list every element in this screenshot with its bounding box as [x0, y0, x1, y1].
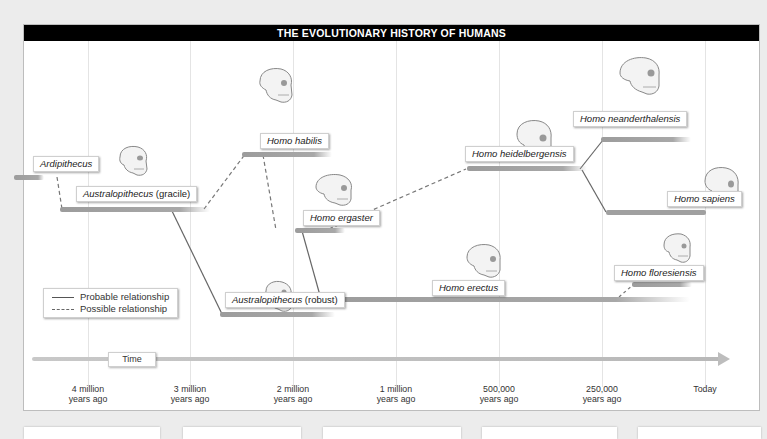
- bottom-card: [24, 427, 160, 439]
- species-name: Homo sapiens: [674, 193, 735, 204]
- tick-line2: years ago: [567, 394, 637, 404]
- homo-sapiens-range-bar: [606, 210, 706, 215]
- tick-line1: 2 million: [258, 384, 328, 394]
- homo-habilis-skull-icon: [256, 65, 296, 107]
- species-qualifier: (gracile): [153, 188, 190, 199]
- homo-heidelbergensis-range-bar: [467, 166, 587, 171]
- bottom-card: [183, 427, 301, 439]
- tick-line1: 1 million: [361, 384, 431, 394]
- time-tick-1-million: 1 millionyears ago: [361, 384, 431, 404]
- time-tick-3-million: 3 millionyears ago: [155, 384, 225, 404]
- page-header-strip: [0, 0, 767, 22]
- legend-label: Probable relationship: [80, 291, 169, 303]
- legend-item-probable: Probable relationship: [52, 291, 169, 303]
- tick-line2: years ago: [258, 394, 328, 404]
- tick-line1: 4 million: [53, 384, 123, 394]
- legend-item-possible: Possible relationship: [52, 303, 169, 315]
- homo-erectus-range-bar: [320, 297, 690, 302]
- tick-line1: 3 million: [155, 384, 225, 394]
- species-label-homo-habilis: Homo habilis: [260, 133, 329, 149]
- evolution-diagram-panel: THE EVOLUTIONARY HISTORY OF HUMANS: [23, 24, 760, 411]
- homo-erectus-skull-icon: [464, 242, 504, 282]
- homo-floresiensis-skull-icon: [661, 232, 693, 266]
- homo-ergaster-skull-icon: [313, 171, 355, 209]
- species-name: Homo erectus: [439, 282, 498, 293]
- homo-ergaster-range-bar: [295, 228, 345, 233]
- species-label-homo-floresiensis: Homo floresiensis: [614, 265, 704, 281]
- species-label-ardipithecus: Ardipithecus: [33, 156, 99, 172]
- time-tick-4-million: 4 millionyears ago: [53, 384, 123, 404]
- legend-box: Probable relationship Possible relations…: [43, 288, 178, 318]
- species-name: Australopithecus: [232, 294, 302, 305]
- bottom-card: [638, 427, 761, 439]
- tick-line2: years ago: [361, 394, 431, 404]
- time-tick-2-million: 2 millionyears ago: [258, 384, 328, 404]
- dashed-line-icon: [52, 309, 74, 310]
- species-label-australopithecus-robust: Australopithecus (robust): [225, 292, 345, 308]
- homo-neanderthalensis-range-bar: [601, 137, 691, 142]
- time-tick-250000: 250,000years ago: [567, 384, 637, 404]
- time-tick-500000: 500,000years ago: [464, 384, 534, 404]
- species-label-australopithecus-gracile: Australopithecus (gracile): [76, 186, 197, 202]
- time-axis-label: Time: [108, 352, 156, 367]
- bottom-card: [482, 427, 617, 439]
- species-name: Homo floresiensis: [621, 267, 697, 278]
- species-name: Ardipithecus: [40, 158, 92, 169]
- species-label-homo-sapiens: Homo sapiens: [667, 191, 742, 207]
- time-tick-today: Today: [670, 384, 740, 394]
- tick-line2: years ago: [53, 394, 123, 404]
- tick-line1: Today: [670, 384, 740, 394]
- tick-line2: years ago: [464, 394, 534, 404]
- species-label-homo-ergaster: Homo ergaster: [303, 210, 380, 226]
- species-name: Homo heidelbergensis: [472, 148, 567, 159]
- ardipithecus-range-bar: [14, 175, 44, 180]
- time-arrow-icon: [718, 352, 730, 366]
- species-name: Homo neanderthalensis: [580, 113, 680, 124]
- australopithecus-gracile-skull-icon: [116, 143, 150, 179]
- homo-neanderthalensis-skull-icon: [617, 55, 663, 99]
- species-name: Australopithecus: [83, 188, 153, 199]
- homo-floresiensis-range-bar: [632, 282, 692, 287]
- solid-line-icon: [52, 297, 74, 298]
- australopithecus-gracile-range-bar: [60, 207, 210, 212]
- species-name: Homo habilis: [267, 135, 322, 146]
- tick-line2: years ago: [155, 394, 225, 404]
- tick-line1: 500,000: [464, 384, 534, 394]
- species-name: Homo ergaster: [310, 212, 373, 223]
- species-qualifier: (robust): [302, 294, 337, 305]
- species-label-homo-neanderthalensis: Homo neanderthalensis: [573, 111, 687, 127]
- bottom-card: [323, 427, 461, 439]
- tick-line1: 250,000: [567, 384, 637, 394]
- species-label-homo-erectus: Homo erectus: [432, 280, 505, 296]
- homo-habilis-range-bar: [242, 152, 332, 157]
- species-label-homo-heidelbergensis: Homo heidelbergensis: [465, 146, 574, 162]
- legend-label: Possible relationship: [80, 303, 167, 315]
